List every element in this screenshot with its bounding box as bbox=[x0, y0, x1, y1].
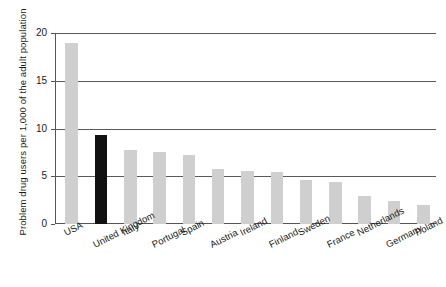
y-tick-label: 10 bbox=[17, 124, 47, 134]
bar bbox=[241, 171, 254, 224]
bar bbox=[183, 155, 196, 224]
bar bbox=[329, 182, 342, 224]
x-tick-label: France bbox=[325, 227, 356, 250]
y-tick-label: 5 bbox=[17, 171, 47, 181]
bar-chart: Problem drug users per 1,000 of the adul… bbox=[0, 0, 446, 287]
bar bbox=[95, 135, 108, 224]
plot-area: 05101520 bbox=[55, 33, 436, 224]
gridline bbox=[55, 33, 436, 34]
bar bbox=[271, 172, 284, 224]
y-tick-mark bbox=[51, 81, 55, 82]
gridline bbox=[55, 129, 436, 130]
x-axis-labels: USAUnited KingdomItalyPortugalSpainAustr… bbox=[55, 224, 446, 287]
y-tick-mark bbox=[51, 33, 55, 34]
y-tick-label: 20 bbox=[17, 28, 47, 38]
y-tick-label: 15 bbox=[17, 76, 47, 86]
y-tick-mark bbox=[51, 129, 55, 130]
bar bbox=[153, 152, 166, 224]
x-tick-label: Austria bbox=[208, 227, 239, 250]
x-tick-label: Finland bbox=[267, 226, 300, 250]
gridline bbox=[55, 81, 436, 82]
bar bbox=[124, 150, 137, 224]
y-tick-mark bbox=[51, 176, 55, 177]
bar bbox=[300, 180, 313, 224]
y-tick-label: 0 bbox=[17, 219, 47, 229]
bar bbox=[212, 169, 225, 224]
bar bbox=[65, 43, 78, 224]
